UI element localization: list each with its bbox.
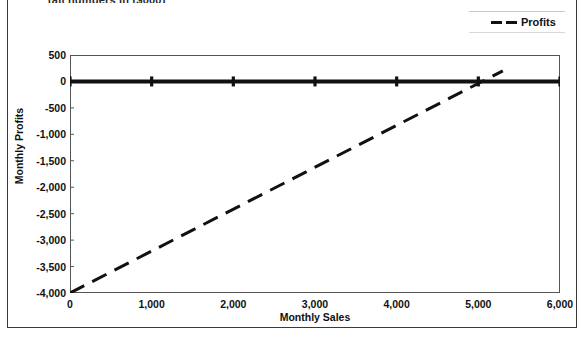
- chart-legend: Profits: [469, 11, 565, 33]
- data-point-marker: [558, 76, 560, 86]
- x-tick-label: 5,000: [465, 298, 491, 310]
- y-tick-label: -3,500: [10, 261, 66, 273]
- legend-dash-icon-a: [491, 21, 502, 24]
- data-point-marker: [395, 76, 398, 86]
- x-tick-label: 0: [67, 298, 73, 310]
- y-axis-title: Monthly Profits: [13, 91, 25, 201]
- x-tick-label: 1,000: [139, 298, 165, 310]
- chart-screenshot: (all numbers in ($000) Profits 5000-500-…: [0, 0, 586, 345]
- y-tick-label: -3,000: [10, 234, 66, 246]
- plot-canvas: [70, 55, 560, 293]
- clipped-title-text: (all numbers in ($000): [48, 0, 166, 3]
- data-point-marker: [313, 76, 316, 86]
- y-tick-label: -2,500: [10, 208, 66, 220]
- y-tick-label: 500: [10, 49, 66, 61]
- x-tick-label: 3,000: [302, 298, 328, 310]
- plot-area: [70, 55, 560, 293]
- x-tick-label: 4,000: [384, 298, 410, 310]
- x-axis-title: Monthly Sales: [70, 311, 560, 323]
- legend-label-profits: Profits: [521, 16, 556, 28]
- y-tick-label: -4,000: [10, 287, 66, 299]
- series-line-profits: [70, 71, 503, 293]
- data-point-marker: [232, 76, 235, 86]
- legend-dash-icon-b: [506, 21, 517, 24]
- x-tick-label: 2,000: [220, 298, 246, 310]
- y-tick-label: 0: [10, 75, 66, 87]
- data-point-marker: [70, 76, 72, 86]
- data-point-marker: [150, 76, 153, 86]
- x-tick-label: 6,000: [547, 298, 573, 310]
